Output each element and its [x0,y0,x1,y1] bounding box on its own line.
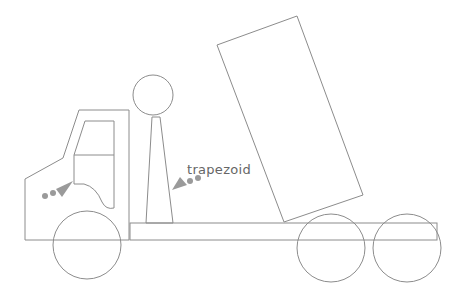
trapezoid-arrow-icon [172,175,201,190]
trapezoid-label: trapezoid [187,162,251,177]
cab-arrow-icon [42,181,73,199]
rear-wheel-2 [373,214,441,282]
dump-bed-rectangle [217,16,363,222]
rear-wheel-1 [297,214,365,282]
ball-circle [133,75,173,115]
cab-door [74,121,114,208]
trapezoid-post [146,117,173,223]
frame-rectangle [130,223,437,240]
front-wheel [53,211,121,279]
truck-diagram [0,0,464,300]
cab-outline [25,110,129,240]
